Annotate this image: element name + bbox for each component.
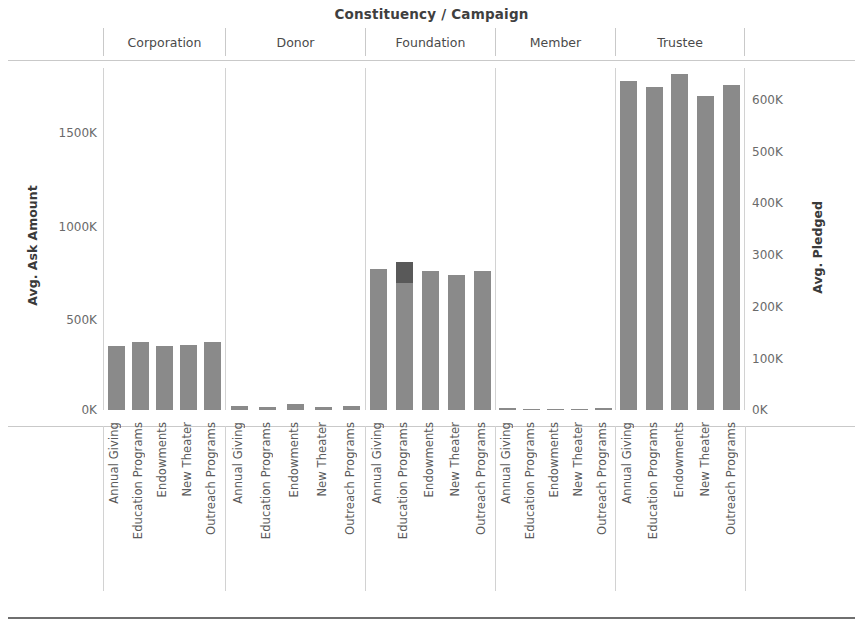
bar-segment-pledged[interactable] xyxy=(620,81,637,410)
bar[interactable] xyxy=(259,407,276,410)
bar-group xyxy=(226,68,365,410)
bar[interactable] xyxy=(108,346,125,410)
bar-segment-pledged[interactable] xyxy=(523,409,540,410)
y-axis-left-tick: 500K xyxy=(66,313,97,327)
y-axis-right-tick: 0K xyxy=(752,403,768,417)
y-axis-left-tick: 1000K xyxy=(59,220,97,234)
bar-segment-pledged[interactable] xyxy=(370,269,387,410)
bar-segment-pledged[interactable] xyxy=(315,407,332,410)
bar-segment-pledged[interactable] xyxy=(422,271,439,410)
bar[interactable] xyxy=(180,345,197,410)
x-axis-label: Annual Giving xyxy=(620,422,637,504)
x-axis-label: New Theater xyxy=(698,422,715,497)
x-label-group-trustee: Annual GivingEducation ProgramsEndowment… xyxy=(615,418,745,598)
axis-rule-bottom xyxy=(8,617,855,619)
bar[interactable] xyxy=(422,271,439,410)
bar-segment-pledged[interactable] xyxy=(723,85,740,410)
x-axis-labels: Annual GivingEducation ProgramsEndowment… xyxy=(103,418,745,598)
panel-divider xyxy=(615,426,616,591)
bar[interactable] xyxy=(287,404,304,410)
bar-segment-pledged[interactable] xyxy=(108,346,125,410)
x-label-group-member: Annual GivingEducation ProgramsEndowment… xyxy=(495,418,615,598)
panel-divider xyxy=(365,426,366,591)
bar-segment-pledged[interactable] xyxy=(595,408,612,410)
x-axis-label: Outreach Programs xyxy=(343,422,360,535)
x-axis-label: Outreach Programs xyxy=(724,422,741,535)
bar[interactable] xyxy=(620,81,637,410)
bar[interactable] xyxy=(697,96,714,410)
bar[interactable] xyxy=(396,262,413,410)
panel-header-corporation: Corporation xyxy=(103,28,225,56)
x-axis-label: Endowments xyxy=(672,422,689,497)
bar-segment-pledged[interactable] xyxy=(180,345,197,410)
panel-divider xyxy=(103,426,104,591)
bar-segment-pledged[interactable] xyxy=(132,342,149,410)
x-axis-label: Endowments xyxy=(547,422,564,497)
bar-segment-pledged[interactable] xyxy=(499,408,516,410)
x-axis-label: Annual Giving xyxy=(107,422,124,504)
panel-header-band: CorporationDonorFoundationMemberTrustee xyxy=(103,28,745,56)
x-axis-label: Education Programs xyxy=(646,422,663,539)
x-axis-label: New Theater xyxy=(315,422,332,497)
panel-header-member: Member xyxy=(495,28,615,56)
bar-segment-pledged[interactable] xyxy=(571,409,588,410)
axis-rule-top xyxy=(8,60,855,61)
bar-segment-pledged[interactable] xyxy=(287,404,304,410)
bar-segment-pledged[interactable] xyxy=(343,406,360,410)
panel-header-label: Donor xyxy=(277,35,315,50)
x-axis-label: Education Programs xyxy=(396,422,413,539)
panel-header-label: Corporation xyxy=(128,35,202,50)
bar-segment-pledged[interactable] xyxy=(671,74,688,410)
y-axis-left-ticks: 1500K1000K500K0K xyxy=(0,0,97,630)
bar-segment-pledged[interactable] xyxy=(646,87,663,411)
bar[interactable] xyxy=(474,271,491,410)
bar[interactable] xyxy=(132,342,149,410)
panel-header-donor: Donor xyxy=(225,28,365,56)
x-label-group-donor: Annual GivingEducation ProgramsEndowment… xyxy=(225,418,365,598)
y-axis-left-tick: 0K xyxy=(81,403,97,417)
x-axis-label: Annual Giving xyxy=(231,422,248,504)
y-axis-right-tick: 600K xyxy=(752,93,783,107)
bar[interactable] xyxy=(671,74,688,410)
bar[interactable] xyxy=(571,409,588,410)
bar-segment-pledged[interactable] xyxy=(156,346,173,410)
panel-foundation xyxy=(365,68,495,410)
bar-segment-pledged[interactable] xyxy=(231,406,248,410)
chart-title: Constituency / Campaign xyxy=(0,6,863,22)
bar-segment-pledged[interactable] xyxy=(448,275,465,410)
panel-member xyxy=(495,68,615,410)
bar[interactable] xyxy=(646,87,663,411)
bar-segment-pledged[interactable] xyxy=(204,342,221,410)
bar-segment-pledged[interactable] xyxy=(697,96,714,410)
panel-header-foundation: Foundation xyxy=(365,28,495,56)
x-axis-label: Education Programs xyxy=(523,422,540,539)
panel-donor xyxy=(225,68,365,410)
bar-segment-pledged[interactable] xyxy=(259,407,276,410)
x-axis-label: Endowments xyxy=(422,422,439,497)
bar[interactable] xyxy=(523,409,540,410)
bar[interactable] xyxy=(547,409,564,410)
bar[interactable] xyxy=(231,406,248,410)
bar-group xyxy=(366,68,495,410)
x-axis-label: Outreach Programs xyxy=(474,422,491,535)
bar[interactable] xyxy=(723,85,740,410)
bar-segment-pledged[interactable] xyxy=(547,409,564,410)
plot-area xyxy=(103,68,745,410)
x-axis-label: New Theater xyxy=(571,422,588,497)
bar[interactable] xyxy=(499,408,516,410)
bar-segment-pledged[interactable] xyxy=(474,271,491,410)
bar-segment-pledged[interactable] xyxy=(396,283,413,410)
bar[interactable] xyxy=(595,408,612,410)
panel-header-label: Member xyxy=(530,35,581,50)
bar[interactable] xyxy=(204,342,221,410)
x-label-group-foundation: Annual GivingEducation ProgramsEndowment… xyxy=(365,418,495,598)
x-axis-label: Annual Giving xyxy=(370,422,387,504)
bar[interactable] xyxy=(156,346,173,410)
bar[interactable] xyxy=(370,269,387,410)
x-label-group-corporation: Annual GivingEducation ProgramsEndowment… xyxy=(103,418,225,598)
bar[interactable] xyxy=(315,407,332,410)
bar[interactable] xyxy=(448,275,465,410)
bar-group xyxy=(496,68,615,410)
bar-segment-ask-amount[interactable] xyxy=(396,262,413,283)
bar[interactable] xyxy=(343,406,360,410)
